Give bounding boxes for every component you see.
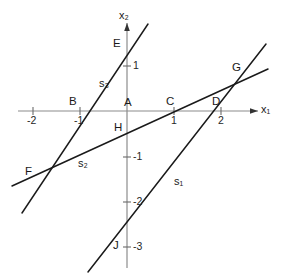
point-label-H: H [114,122,122,134]
point-label-F: F [25,166,32,178]
line-s1 [88,44,266,272]
point-label-G: G [232,62,241,74]
y-tick-label--3: -3 [133,241,142,252]
point-label-D: D [212,96,220,108]
line-s3 [22,24,148,213]
x-tick-label-2: 2 [218,115,224,126]
line-label-s3: s₃ [99,78,109,89]
point-label-A: A [124,97,132,109]
point-label-J: J [113,240,119,252]
x-tick-label--1: -1 [74,115,83,126]
point-label-E: E [113,38,121,50]
x-tick-label--2: -2 [27,115,36,126]
y-tick-label--2: -2 [133,196,142,207]
line-label-s1: s₁ [174,176,183,187]
line-s2 [12,69,268,186]
y-axis-label: x₂ [119,10,129,21]
y-tick-label-1: 1 [133,60,139,71]
x-tick-label-1: 1 [171,115,177,126]
y-tick-label--1: -1 [133,151,142,162]
y-axis-arrowhead [124,23,130,31]
x-axis-label: x₁ [261,104,270,115]
x-axis-arrowhead [250,108,258,114]
plot-canvas [0,0,288,278]
line-label-s2: s₂ [78,158,88,169]
point-label-C: C [166,96,174,108]
point-label-B: B [69,96,77,108]
coordinate-geometry-figure: x₁ x₂ -2 -1 1 2 1 -1 -2 -3 A B C D E F G… [0,0,288,278]
